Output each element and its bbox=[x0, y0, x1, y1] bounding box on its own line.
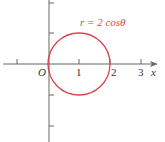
x-axis-label: x bbox=[151, 67, 156, 78]
x-tick-label-2: 2 bbox=[111, 67, 117, 78]
x-tick-label-3: 3 bbox=[138, 67, 144, 78]
origin-label: O bbox=[38, 67, 46, 78]
x-tick-label-1: 1 bbox=[76, 67, 82, 78]
equation-label: r = 2 cosθ bbox=[80, 17, 126, 28]
